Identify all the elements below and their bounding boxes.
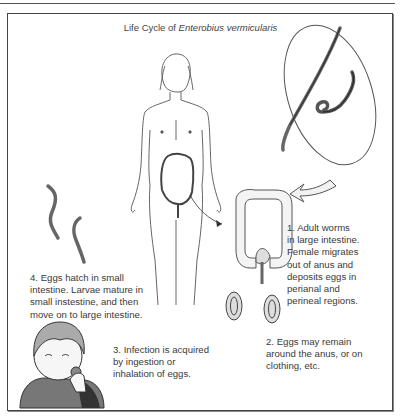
caption-line: 4. Eggs hatch in small — [30, 272, 143, 284]
magnified-worms-icon — [268, 14, 392, 177]
caption-line: perianal and — [287, 283, 360, 295]
caption-line: 3. Infection is acquired — [113, 344, 209, 356]
eggs-icon — [226, 292, 280, 323]
caption-line: in large intestine. — [287, 234, 360, 246]
caption-line: inhalation of eggs. — [113, 368, 209, 380]
caption-line: clothing, etc. — [266, 360, 363, 372]
child-icon — [20, 322, 104, 408]
step-2-caption: 2. Eggs may remain around the anus, or o… — [266, 336, 363, 373]
caption-line: move on to large intestine. — [30, 309, 143, 321]
caption-line: small instestine, and then — [30, 296, 143, 308]
step-1-caption: 1. Adult worms in large intestine. Femal… — [287, 222, 360, 307]
caption-line: around the anus, or on — [266, 348, 363, 360]
caption-line: by ingestion or — [113, 356, 209, 368]
caption-line: intestine. Larvae mature in — [30, 284, 143, 296]
caption-line: 2. Eggs may remain — [266, 336, 363, 348]
caption-line: Female migrates — [287, 246, 360, 258]
caption-line: out of anus and — [287, 259, 360, 271]
step-4-caption: 4. Eggs hatch in small intestine. Larvae… — [30, 272, 143, 321]
body-intestine-icon — [161, 154, 193, 218]
caption-line: perineal regions. — [287, 295, 360, 307]
step-3-caption: 3. Infection is acquired by ingestion or… — [113, 344, 209, 381]
larvae-icon — [48, 186, 84, 262]
human-figure-icon — [131, 54, 221, 305]
caption-line: 1. Adult worms — [287, 222, 360, 234]
curved-arrow-icon — [290, 180, 336, 202]
large-intestine-icon — [236, 189, 292, 284]
caption-line: deposits eggs in — [287, 271, 360, 283]
